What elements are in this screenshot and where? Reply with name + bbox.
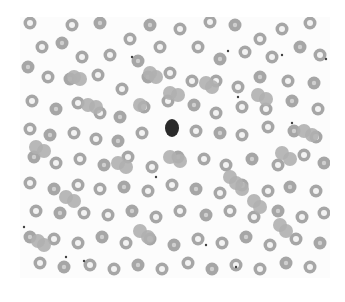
blood-smear-image — [20, 17, 330, 278]
blood-smear-canvas — [20, 17, 330, 278]
dark-stained-cell — [165, 119, 179, 137]
